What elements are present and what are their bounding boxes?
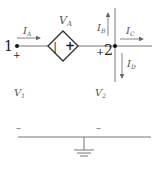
current-IC-label: IC (125, 25, 135, 37)
node1-label: 1 (4, 38, 13, 54)
current-IB-label: IB (96, 22, 106, 34)
voltage-V1-label: V1 (14, 87, 25, 99)
circuit-diagram: | + VA 1 + + 2 IA IB IC ID V1 V2 – – (0, 0, 163, 169)
source-plus-sign: + (65, 39, 75, 53)
node2-label: 2 (104, 42, 113, 58)
source-label: VA (59, 14, 72, 28)
node1-dot (15, 44, 19, 48)
voltage-V2-label: V2 (95, 87, 106, 99)
source-minus-sign: | (53, 40, 57, 54)
current-IA-label: IA (22, 25, 32, 37)
node2-minus: – (96, 122, 101, 133)
node1-plus: + (13, 50, 21, 60)
ground-icon (74, 150, 94, 156)
current-ID-label: ID (126, 58, 136, 70)
node1-minus: – (16, 122, 21, 133)
dependent-voltage-source: | + (48, 31, 78, 61)
node2-dot (113, 44, 117, 48)
